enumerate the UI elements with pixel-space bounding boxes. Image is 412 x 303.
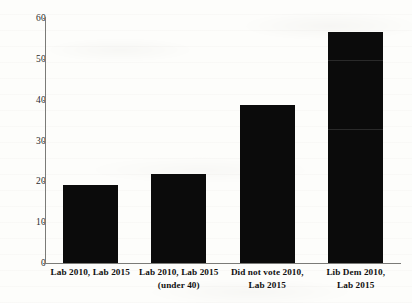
bar (151, 174, 206, 263)
y-axis-ticks: 0102030405060 (14, 0, 46, 303)
bar (328, 32, 383, 263)
bar-chart: 0102030405060 Lab 2010, Lab 2015Lab 2010… (0, 0, 412, 303)
x-axis-category-labels: Lab 2010, Lab 2015Lab 2010, Lab 2015(und… (0, 266, 412, 303)
x-axis-category-label-line: Lib Dem 2010, (304, 266, 408, 279)
bar (240, 105, 295, 263)
bar (63, 185, 118, 263)
x-axis-category-label: Lib Dem 2010,Lab 2015 (304, 266, 408, 291)
bar-scanline (328, 60, 383, 61)
bar-scanline (328, 129, 383, 130)
x-axis-line (45, 263, 401, 264)
x-axis-category-label-line: Lab 2015 (304, 279, 408, 292)
bars-layer (46, 18, 400, 263)
